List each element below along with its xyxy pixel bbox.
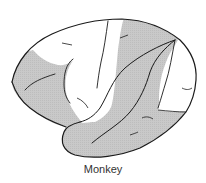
brain-diagram xyxy=(0,0,206,183)
figure-caption: Monkey xyxy=(0,163,206,175)
monkey-brain-figure: Monkey xyxy=(0,0,206,183)
